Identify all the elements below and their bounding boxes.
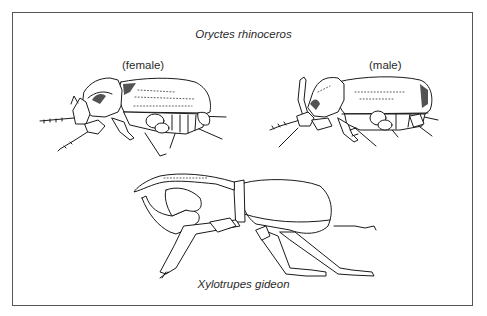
beetle-female-oryctes-illustration <box>40 78 226 156</box>
beetle-xylotrupes-illustration <box>134 174 376 278</box>
beetle-illustrations <box>0 0 487 316</box>
beetle-male-oryctes-illustration <box>270 77 438 147</box>
